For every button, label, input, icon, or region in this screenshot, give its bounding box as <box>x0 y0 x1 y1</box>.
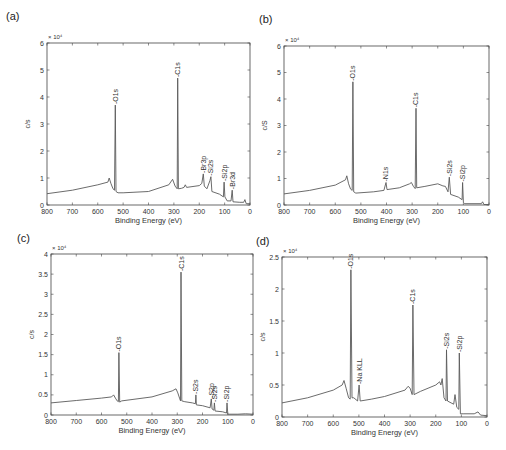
y-multiplier: × 10⁴ <box>48 34 63 40</box>
y-tick-label: 2 <box>277 149 281 156</box>
y-tick-label: 4 <box>277 96 281 103</box>
x-tick-label: 700 <box>302 420 314 427</box>
x-tick-label: 400 <box>146 418 158 425</box>
y-axis-label: c/s <box>28 330 35 339</box>
y-tick-label: 6 <box>277 43 281 50</box>
y-tick-label: 0 <box>277 202 281 209</box>
y-tick-label: 2 <box>275 286 279 293</box>
y-axis-label: c/S <box>261 120 268 130</box>
peak-label: -O1s <box>112 88 119 104</box>
y-tick-label: 4 <box>44 251 48 258</box>
x-tick-label: 0 <box>251 418 255 425</box>
y-tick-label: 1 <box>44 371 48 378</box>
x-tick-label: 300 <box>168 208 180 215</box>
y-tick-label: 3 <box>44 291 48 298</box>
x-tick-label: 200 <box>197 418 209 425</box>
y-axis-label: c/s <box>259 332 266 341</box>
x-tick-label: 800 <box>276 420 288 427</box>
y-tick-label: 2 <box>40 148 44 155</box>
x-tick-label: 0 <box>248 208 252 215</box>
x-tick-label: 600 <box>327 420 339 427</box>
y-tick-label: 3.5 <box>38 271 48 278</box>
peak-label: -Si2s <box>443 332 450 348</box>
y-tick-label: 0 <box>40 202 44 209</box>
peak-label: -Na KLL <box>356 358 363 384</box>
plot-frame <box>47 43 250 205</box>
x-tick-label: 400 <box>143 208 155 215</box>
y-tick-label: 2.5 <box>38 311 48 318</box>
chart-panel-d: 800700600500400300200100000.511.522.5× 1… <box>259 248 489 437</box>
y-tick-label: 1 <box>277 175 281 182</box>
peak-label: -O1s <box>347 253 354 269</box>
x-axis-label: Binding Energy (eV) <box>353 216 421 225</box>
peak-label: -Si2s <box>207 159 214 175</box>
x-tick-label: 300 <box>406 208 418 215</box>
x-tick-label: 800 <box>45 418 57 425</box>
peak-label: -N1s <box>382 166 389 181</box>
peak-label: -O1s <box>349 65 356 81</box>
peak-label: -C1s <box>174 62 181 77</box>
peak-label: -Si2s <box>446 160 453 176</box>
x-tick-label: 500 <box>353 420 365 427</box>
x-tick-label: 500 <box>117 208 129 215</box>
y-tick-label: 1 <box>40 175 44 182</box>
xps-spectrum-line <box>47 78 250 204</box>
y-tick-label: 1 <box>275 350 279 357</box>
x-tick-label: 700 <box>304 208 316 215</box>
peak-label: -C1s <box>178 256 185 271</box>
y-tick-label: 5 <box>277 69 281 76</box>
peak-label: -S2s <box>192 379 199 394</box>
peak-label: -Si2p <box>456 336 464 352</box>
x-tick-label: 600 <box>329 208 341 215</box>
x-tick-label: 400 <box>379 420 391 427</box>
y-tick-label: 0 <box>44 412 48 419</box>
y-tick-label: 2.5 <box>269 254 279 261</box>
y-tick-label: 1.5 <box>269 318 279 325</box>
x-tick-label: 200 <box>193 208 205 215</box>
x-tick-label: 0 <box>487 208 491 215</box>
y-tick-label: 1.5 <box>38 351 48 358</box>
y-tick-label: 6 <box>40 40 44 47</box>
peak-label: -Si2p <box>221 165 229 181</box>
x-axis-label: Binding Energy (eV) <box>351 428 419 437</box>
y-tick-label: 0 <box>275 414 279 421</box>
y-tick-label: 4 <box>40 94 44 101</box>
peak-label: -C1s <box>412 92 419 107</box>
y-tick-label: 3 <box>277 122 281 129</box>
x-axis-label: Binding Energy (eV) <box>115 216 183 225</box>
x-tick-label: 500 <box>355 208 367 215</box>
xps-charts-canvas: 80070060050040030020010000123456× 10⁴Bin… <box>0 0 506 450</box>
peak-label: -C1s <box>409 289 416 304</box>
x-tick-label: 700 <box>67 208 79 215</box>
x-tick-label: 500 <box>121 418 133 425</box>
y-tick-label: 0.5 <box>38 391 48 398</box>
peak-label: -O1s <box>115 336 122 352</box>
chart-panel-c: 800700600500400300200100000.511.522.533.… <box>28 245 255 435</box>
chart-panel-a: 80070060050040030020010000123456× 10⁴Bin… <box>24 34 252 225</box>
y-tick-label: 0.5 <box>269 382 279 389</box>
x-tick-label: 600 <box>92 208 104 215</box>
x-tick-label: 800 <box>41 208 53 215</box>
xps-spectrum-line <box>284 82 489 205</box>
x-tick-label: 300 <box>171 418 183 425</box>
x-tick-label: 700 <box>70 418 82 425</box>
peak-label: -Si2s <box>211 385 218 401</box>
y-multiplier: × 10⁴ <box>285 37 300 43</box>
x-tick-label: 200 <box>432 208 444 215</box>
y-tick-label: 3 <box>40 121 44 128</box>
x-tick-label: 400 <box>381 208 393 215</box>
x-tick-label: 0 <box>485 420 489 427</box>
peak-label: -Br3d <box>229 172 236 189</box>
x-axis-label: Binding Energy (eV) <box>118 426 186 435</box>
x-tick-label: 200 <box>430 420 442 427</box>
x-tick-label: 800 <box>278 208 290 215</box>
x-tick-label: 600 <box>96 418 108 425</box>
y-tick-label: 2 <box>44 331 48 338</box>
peak-label: -Si2p <box>459 165 467 181</box>
x-tick-label: 100 <box>222 418 234 425</box>
x-tick-label: 100 <box>458 208 470 215</box>
peak-label: -Si2p <box>223 385 231 401</box>
y-multiplier: × 10⁴ <box>283 248 298 254</box>
x-tick-label: 300 <box>404 420 416 427</box>
y-tick-label: 5 <box>40 67 44 74</box>
